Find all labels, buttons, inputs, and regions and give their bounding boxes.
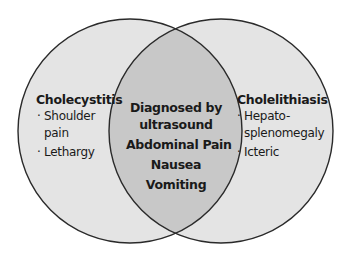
left-set-title: Cholecystitis xyxy=(36,92,122,107)
left-item-shoulder-pain: · Shoulder pain xyxy=(37,108,95,142)
right-set-title: Cholelithiasis xyxy=(237,92,328,107)
overlap-labels: Diagnosed by ultrasound Abdominal Pain N… xyxy=(126,99,226,193)
bullet: · xyxy=(237,109,241,123)
right-item-icteric: · Icteric xyxy=(237,144,279,161)
bullet: · xyxy=(37,109,41,123)
overlap-line: Nausea xyxy=(126,156,226,173)
bullet: · xyxy=(37,145,41,159)
right-item-hepatosplenomegaly: · Hepato- splenomegaly xyxy=(237,108,324,142)
overlap-line: ultrasound xyxy=(126,116,226,133)
overlap-line: Vomiting xyxy=(126,176,226,193)
left-item-lethargy: · Lethargy xyxy=(37,144,95,161)
overlap-line: Abdominal Pain xyxy=(126,136,226,153)
overlap-line: Diagnosed by xyxy=(126,99,226,116)
bullet: · xyxy=(237,145,241,159)
